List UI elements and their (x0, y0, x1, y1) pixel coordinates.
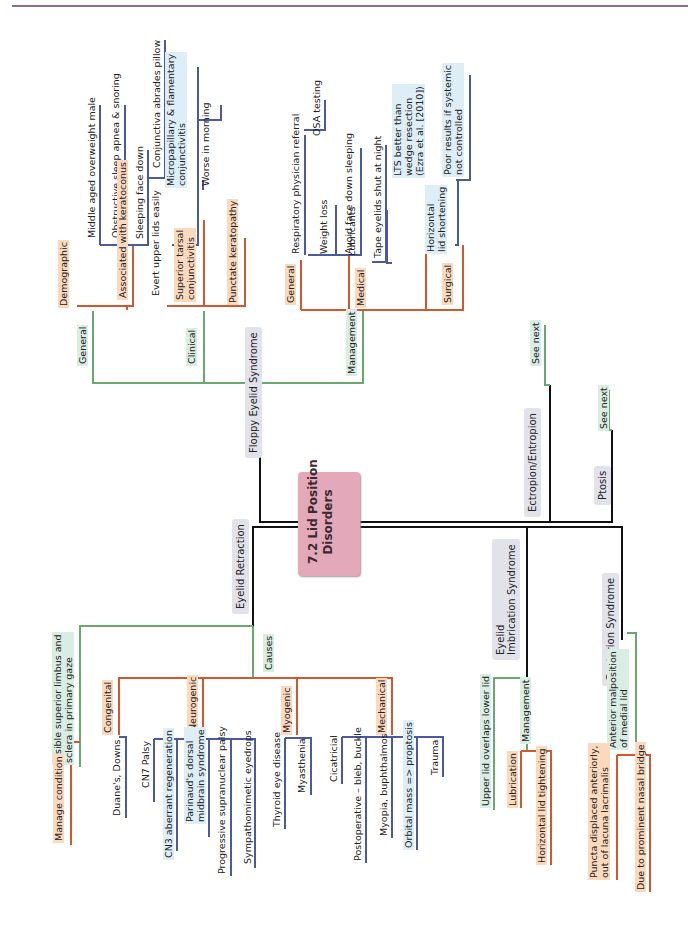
causes-congenital: Congenital (102, 680, 113, 735)
root-node[interactable]: 7.2 Lid Position Disorders (298, 472, 360, 576)
node-floppy-eyelid-syndrome[interactable]: Floppy Eyelid Syndrome (245, 327, 262, 458)
myogenic-item: Thyroid eye disease (271, 730, 282, 829)
congenital-item: Duane's, Downs (111, 738, 122, 819)
node-eyelid-imbrication[interactable]: Eyelid Imbrication Syndrome (492, 539, 520, 660)
mgmt-medical: Medical (355, 268, 366, 308)
mechanical-item: Cicatricial (328, 733, 339, 784)
neurogenic-item: CN3 aberrant regeneration (163, 728, 174, 860)
causes-neurogenic: Neurogenic (187, 675, 198, 733)
mechanical-item: Trauma (429, 738, 440, 777)
mgmt-general: General (285, 264, 296, 305)
node-ptosis[interactable]: Ptosis (594, 466, 611, 505)
mgmt-tape-eyelids: Tape eyelids shut at night (372, 134, 383, 260)
centurion-nasal-bridge: Due to prominent nasal bridge (635, 742, 646, 892)
floppy-associated-keratoconus: Associated with keratoconus (117, 160, 128, 300)
neurogenic-item: Parinaud's dorsal midbrain syndrome (184, 727, 206, 824)
root-title: 7.2 Lid Position Disorders (306, 480, 336, 564)
mgmt-osa-testing: OSA testing (311, 78, 322, 138)
clinical-worse-morning: Worse in morning (200, 100, 211, 188)
imbrication-lubrication: Lubrication (507, 751, 518, 808)
neurogenic-item: Sympathomimetic eyedrops (242, 728, 253, 866)
imbrication-upper-overlaps: Upper lid overlaps lower lid (480, 674, 491, 808)
surgical-lts-better: LTS better than wedge resection (Ezra et… (392, 84, 425, 178)
surgical-horizontal-lid-shortening: Horizontal lid shortening (425, 185, 447, 254)
mechanical-item: Orbital mass => proptosis (403, 720, 414, 850)
neurogenic-item: CN7 Palsy (140, 739, 151, 790)
mechanical-item: Myopia, buphthalmos (378, 732, 389, 839)
floppy-demographic: Demographic (58, 240, 69, 308)
surgical-poor-results: Poor results if systemic not controlled (442, 63, 464, 177)
floppy-general: General (77, 325, 88, 366)
centurion-puncta-displaced: Puncta displaced anteriorly, out of lacu… (588, 743, 610, 880)
causes-myogenic: Myogenic (281, 686, 292, 735)
demographic-item: Conjunctiva abrades pillow (151, 38, 162, 170)
imbrication-horizontal-tightening: Horizontal lid tightening (536, 746, 547, 865)
mgmt-weight-loss: Weight loss (318, 198, 329, 256)
ptosis-see-next[interactable]: See next (598, 385, 609, 431)
floppy-management: Management (346, 309, 357, 376)
retraction-visible-limbus: Visible superior limbus and sclera in pr… (52, 632, 74, 765)
centurion-anterior-malposition: Anterior malposition of medial lid (607, 649, 629, 750)
floppy-clinical: Clinical (186, 328, 197, 366)
clinical-evert: Evert upper lids easily (150, 188, 161, 298)
retraction-manage-condition: Manage condition (53, 754, 64, 843)
clinical-micropapillary: Micropapillary & flamentary conjunctivit… (165, 52, 187, 188)
node-ectropion-entropion[interactable]: Ectropion/Entropion (524, 408, 541, 517)
demographic-item: Middle aged overweight male (86, 95, 97, 240)
mechanical-item: Postoperative – bleb, buckle (352, 725, 363, 863)
mgmt-respiratory-referral: Respiratory physician referral (290, 112, 301, 256)
demographic-item: Sleeping face down (134, 144, 145, 241)
neurogenic-item: Progressive supranuclear palsy (216, 724, 227, 876)
ectropion-see-next[interactable]: See next (530, 320, 541, 366)
mgmt-lubricants: Lubricants (346, 205, 357, 258)
myogenic-item: Myasthenia (296, 736, 307, 795)
mgmt-surgical: Surgical (442, 263, 453, 305)
causes-mechanical: Mechanical (376, 678, 387, 735)
imbrication-management: Management (520, 677, 531, 744)
clinical-punctate-keratopathy: Punctate keratopathy (227, 199, 238, 305)
retraction-causes: Causes (263, 634, 274, 672)
clinical-superior-tarsal: Superior tarsal conjunctivitis (174, 228, 196, 302)
node-eyelid-retraction[interactable]: Eyelid Retraction (232, 519, 249, 614)
